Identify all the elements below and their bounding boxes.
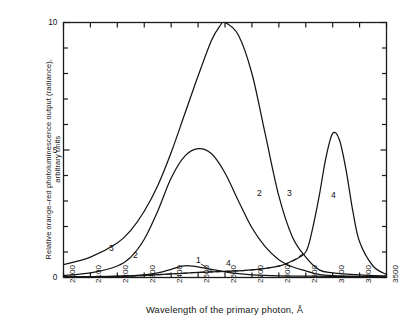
x-tick-label-3100: 3100 [337, 264, 346, 282]
y-tick-label-10: 10 [36, 17, 58, 27]
curves-group [64, 22, 387, 277]
y-tick-label-5: 5 [36, 145, 58, 155]
chart-figure: Relative orange–red photoluminescence ou… [0, 0, 403, 331]
curve-3 [64, 22, 387, 276]
curve-number-label-4-3: 4 [226, 258, 231, 268]
y-axis-title: Relative orange–red photoluminescence ou… [44, 34, 62, 284]
x-tick-label-2200: 2200 [121, 264, 130, 282]
curve-number-label-2-1: 2 [133, 250, 138, 260]
x-tick-label-2400: 2400 [175, 264, 184, 282]
x-tick-label-2000: 2000 [68, 264, 77, 282]
curve-number-label-3-5: 3 [287, 188, 292, 198]
curve-2 [64, 149, 387, 277]
curve-number-label-1-2: 1 [196, 255, 201, 265]
curve-4 [64, 132, 387, 277]
x-tick-label-2800: 2800 [283, 264, 292, 282]
x-tick-label-2500: 2500 [202, 264, 211, 282]
x-tick-label-2300: 2300 [148, 264, 157, 282]
x-tick-label-3300: 3300 [364, 264, 373, 282]
x-axis-title: Wavelength of the primary photon, Å [63, 305, 386, 315]
curve-number-label-2-4: 2 [257, 188, 262, 198]
axis-frame [64, 23, 387, 278]
x-tick-label-2700: 2700 [256, 264, 265, 282]
x-tick-label-3500: 3500 [391, 264, 400, 282]
curve-number-label-3-0: 3 [109, 243, 114, 253]
x-tick-label-2900: 2900 [310, 264, 319, 282]
y-tick-label-0: 0 [36, 272, 58, 282]
curve-number-label-4-6: 4 [331, 190, 336, 200]
x-tick-label-2100: 2100 [94, 264, 103, 282]
